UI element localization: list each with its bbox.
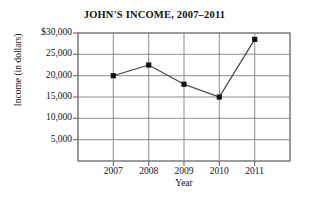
x-tick-label-2011: 2011 bbox=[235, 166, 275, 176]
x-axis-tick-labels: 2007 2008 2009 2010 2011 bbox=[0, 0, 309, 198]
x-axis-title: Year bbox=[78, 178, 290, 188]
x-tick-label-2009: 2009 bbox=[164, 166, 204, 176]
x-tick-label-2007: 2007 bbox=[93, 166, 133, 176]
y-axis-title: Income (in dollars) bbox=[13, 0, 23, 140]
x-tick-label-2008: 2008 bbox=[129, 166, 169, 176]
chart-figure: JOHN'S INCOME, 2007–2011 bbox=[0, 0, 309, 198]
x-tick-label-2010: 2010 bbox=[199, 166, 239, 176]
